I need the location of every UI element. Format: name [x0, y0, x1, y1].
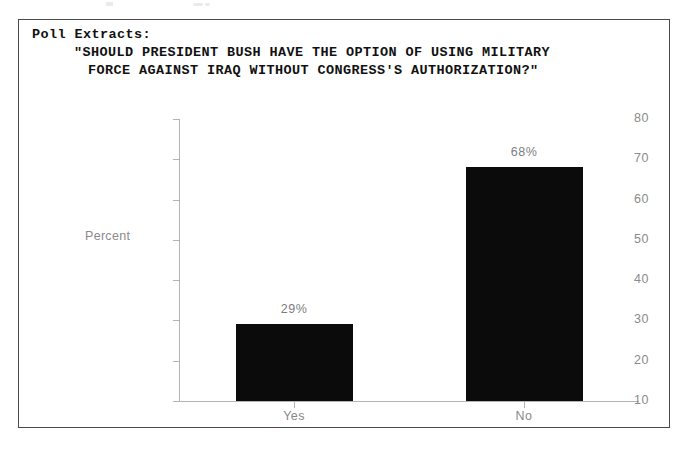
y-axis-tick [173, 200, 180, 201]
bar-value-yes: 29% [254, 302, 334, 316]
y-axis-tick [173, 361, 180, 362]
x-axis-label-yes: Yes [254, 409, 334, 423]
scan-fleck [193, 3, 203, 6]
x-axis-tick [294, 402, 295, 408]
poll-extract-panel: Poll Extracts: "SHOULD PRESIDENT BUSH HA… [18, 19, 670, 428]
scan-artifact-strip [0, 0, 688, 14]
y-axis-tick [173, 320, 180, 321]
y-axis-title: Percent [85, 229, 130, 243]
y-axis-line [179, 119, 180, 402]
y-axis-tick [173, 401, 180, 402]
x-axis-tick [524, 402, 525, 408]
bar-value-no: 68% [484, 145, 564, 159]
x-axis-label-no: No [484, 409, 564, 423]
bar-yes [236, 324, 353, 401]
y-axis-tick [173, 119, 180, 120]
y-axis-tick [173, 159, 180, 160]
bar-chart: Percent 1020304050607080 29%68% YesNo [19, 20, 671, 429]
scan-fleck [106, 2, 113, 6]
bar-no [466, 167, 583, 401]
y-axis-tick [173, 280, 180, 281]
scan-fleck [205, 3, 210, 6]
y-axis-tick [173, 240, 180, 241]
y-axis-tick-label: 80 [531, 111, 671, 125]
